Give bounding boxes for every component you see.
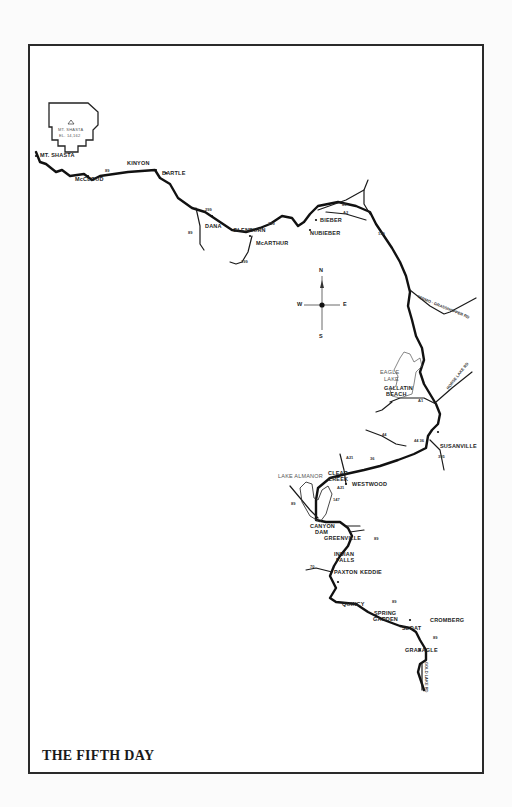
compass-north: N [319,268,323,274]
mountain-icon [68,120,74,124]
town-creek: CREEK [328,477,348,483]
road-termo-grasshopper [410,290,476,314]
town-garden: GARDEN [373,617,398,623]
road-89-greenville-east2 [350,530,364,532]
compass-south: S [319,334,323,340]
lake-almanor-label: LAKE ALMANOR [278,474,323,480]
gold-lake-road-label: GOLD LAKE RD [424,662,428,692]
town-westwood: WESTWOOD [352,482,387,488]
route-89-label: 89 [374,537,378,541]
town-bieber: BIEBER [320,218,342,224]
mountain-elevation: EL. 14,162 [59,134,80,138]
route-299-label: 299 [241,260,248,264]
route-299-label: 299 [205,208,212,212]
town-mccloud: McCLOUD [75,177,104,183]
town-bartle: BARTLE [162,171,186,177]
town-mcarthur: McARTHUR [256,241,288,247]
route-89-label: 89 [105,169,109,173]
route-139-label: 139 [378,232,385,236]
map-title: THE FIFTH DAY [42,748,154,764]
compass-west: W [297,302,302,308]
eagle-lake-label-1: EAGLE [380,370,399,376]
route-89-label: 89 [291,502,295,506]
compass-rose [304,276,340,330]
road-a1 [390,398,436,404]
eagle-lake-label-2: LAKE [384,377,399,383]
route-89-label: 89 [392,600,396,604]
town-keddie: KEDDIE [360,570,382,576]
route-36-label: 36 [370,457,374,461]
route-a21-label: A21 [346,456,353,460]
town-cromberg: CROMBERG [430,618,464,624]
route-70-label: 70 [310,565,314,569]
town-susanville: SUSANVILLE [440,444,477,450]
route-a1-label: A1 [418,399,423,403]
compass-east: E [343,302,347,308]
map-canvas [0,0,512,807]
town-graeagle: GRAEAGLE [405,648,438,654]
town-sloat: SLOAT [402,626,421,632]
route-89-label: 89 [433,636,437,640]
route-a2-label: A2 [343,211,348,215]
town-beach: BEACH [386,392,407,398]
route-44-label: 44 [382,433,386,437]
town-quincy: QUINCY [342,602,365,608]
town-mt-shasta: MT. SHASTA [40,153,75,159]
route-299-north-label: 89 [342,203,346,207]
route-44-36-label: 44 36 [414,439,424,443]
route-395-label: 395 [438,455,445,459]
road-a1-west [376,402,392,412]
town-kinyon: KINYON [127,161,150,167]
town-paxton: PAXTON [334,570,358,576]
route-299-label: 299 [268,222,275,226]
route-147-label: 147 [333,498,340,502]
route-89-label: 89 [188,231,192,235]
town-glenburn: GLENBURN [233,228,266,234]
road-89-branch [196,208,204,250]
town-nubieber: NUBIEBER [310,231,340,237]
mountain-name: MT. SHASTA [58,128,83,132]
town-dana: DANA [205,224,222,230]
town-greenville: GREENVILLE [324,536,361,542]
route-a21-label: A21 [337,486,344,490]
town-falls: FALLS [336,558,354,564]
